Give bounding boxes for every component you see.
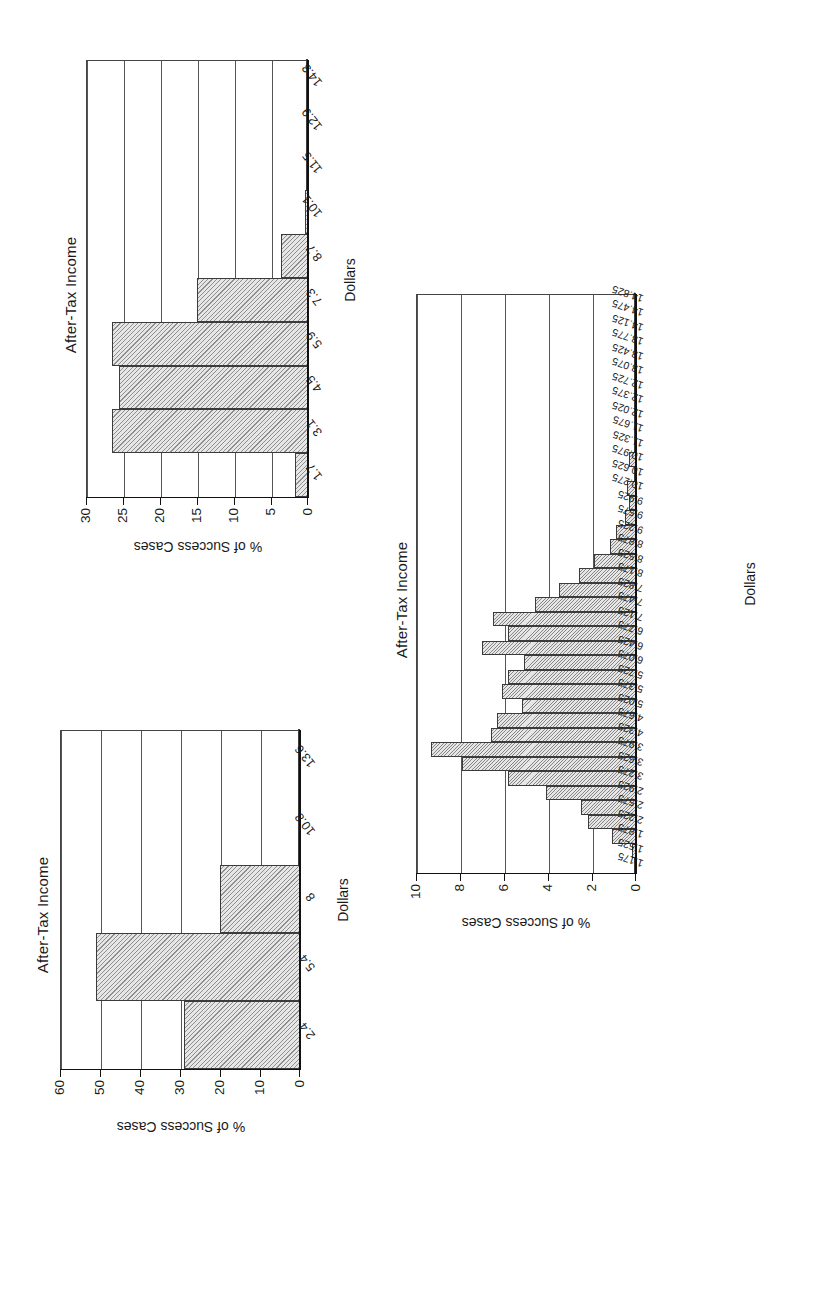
chart-coarse-3bin: After-Tax Income	[30, 690, 360, 1170]
bar-8	[220, 865, 300, 933]
ytick-mark-15	[197, 497, 198, 505]
x-axis-title: Dollars	[342, 185, 358, 375]
chart-fine-40bin: After-Tax Income	[390, 250, 790, 970]
gridline-10	[417, 295, 418, 873]
bar-6.425	[482, 641, 636, 656]
gridline-60	[61, 731, 62, 1069]
gridline-30	[87, 61, 88, 497]
ytick-mark-40	[140, 1069, 141, 1077]
bar-7.3	[197, 278, 308, 322]
ytick-label-0: 0	[292, 1080, 307, 1124]
bar-5.4	[96, 933, 300, 1001]
ytick-mark-25	[123, 497, 124, 505]
ytick-mark-0	[307, 497, 308, 505]
scanned-figure-page: After-Tax Income	[0, 0, 840, 1301]
bar-1.7	[295, 453, 308, 497]
gridline-6	[505, 295, 506, 873]
y-axis-title: % of Success Cases	[86, 1119, 276, 1135]
ytick-mark-60	[60, 1069, 61, 1077]
bar-8.7	[281, 234, 308, 278]
bar-7.125	[493, 612, 636, 627]
ytick-mark-20	[220, 1069, 221, 1077]
bar-4.5	[119, 366, 308, 410]
gridline-50	[101, 731, 102, 1069]
ytick-label-40: 40	[132, 1080, 147, 1124]
chart-medium-9bin: After-Tax Income	[60, 30, 360, 590]
ytick-mark-4	[548, 873, 549, 881]
ytick-mark-0	[299, 1069, 300, 1077]
x-axis-title: Dollars	[742, 489, 758, 679]
ytick-label-10: 10	[408, 884, 423, 926]
bar-3.625	[462, 757, 636, 772]
chart-title: After-Tax Income	[34, 715, 51, 1115]
ytick-label-0: 0	[300, 508, 315, 550]
bar-2.4	[184, 1001, 300, 1069]
plot-area	[416, 294, 636, 874]
ytick-mark-0	[635, 873, 636, 881]
ytick-mark-10	[234, 497, 235, 505]
ytick-label-30: 30	[78, 508, 93, 550]
ytick-mark-30	[86, 497, 87, 505]
ytick-mark-5	[271, 497, 272, 505]
ytick-label-20: 20	[212, 1080, 227, 1124]
ytick-label-10: 10	[252, 1080, 267, 1124]
bar-4.325	[491, 728, 636, 743]
ytick-label-0: 0	[628, 884, 643, 926]
ytick-mark-6	[504, 873, 505, 881]
ytick-mark-2	[592, 873, 593, 881]
bar-5.9	[112, 322, 308, 366]
plot-area	[86, 60, 308, 498]
ytick-mark-30	[180, 1069, 181, 1077]
chart-title: After-Tax Income	[62, 60, 79, 530]
ytick-label-50: 50	[92, 1080, 107, 1124]
ytick-label-60: 60	[52, 1080, 67, 1124]
ytick-mark-20	[160, 497, 161, 505]
ytick-mark-50	[100, 1069, 101, 1077]
ytick-mark-10	[416, 873, 417, 881]
bar-3.975	[431, 743, 636, 758]
y-axis-title: % of Success Cases	[103, 539, 293, 555]
ytick-mark-10	[260, 1069, 261, 1077]
xtick-label-8: 8	[303, 890, 318, 904]
chart-title: After-Tax Income	[393, 320, 410, 880]
gridline-40	[141, 731, 142, 1069]
x-axis-baseline	[299, 730, 301, 1070]
ytick-label-30: 30	[172, 1080, 187, 1124]
x-axis-title: Dollars	[335, 805, 351, 995]
ytick-mark-8	[460, 873, 461, 881]
plot-area	[60, 730, 300, 1070]
gridline-8	[461, 295, 462, 873]
gridline-30	[181, 731, 182, 1069]
bar-3.1	[112, 409, 308, 453]
y-axis-title: % of Success Cases	[431, 915, 621, 931]
